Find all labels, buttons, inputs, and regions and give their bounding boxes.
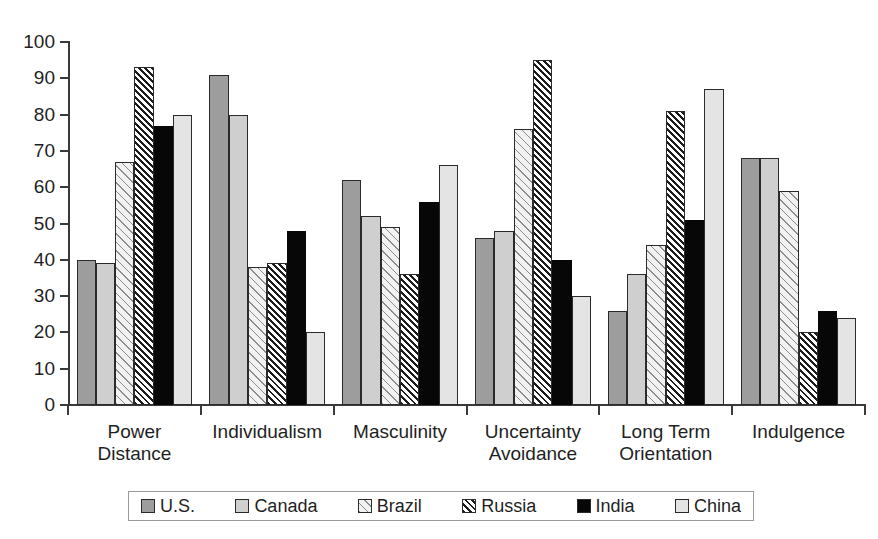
bar-india-power-distance (154, 126, 173, 406)
category-label-line: Individualism (191, 421, 344, 443)
legend-item-us[interactable]: U.S. (141, 497, 195, 515)
legend-swatch-icon (462, 499, 476, 513)
category-label: UncertaintyAvoidance (457, 421, 610, 465)
bar-russia-masculinity (400, 274, 419, 405)
bar-china-power-distance (173, 115, 192, 405)
legend-item-brazil[interactable]: Brazil (358, 497, 422, 515)
bar-us-power-distance (77, 260, 96, 405)
bar-canada-individualism (229, 115, 248, 405)
x-axis-tick (333, 405, 335, 415)
x-axis-tick (67, 405, 69, 415)
bar-russia-long-term-orientation (666, 111, 685, 405)
legend-label: India (596, 497, 635, 515)
category-label: Masculinity (324, 421, 477, 443)
legend-swatch-icon (358, 499, 372, 513)
y-axis-tick-label: 80 (0, 105, 55, 124)
legend-swatch-icon (141, 499, 155, 513)
category-label-line: Long Term (589, 421, 742, 443)
bar-brazil-power-distance (115, 162, 134, 405)
x-axis-tick (598, 405, 600, 415)
bar-india-masculinity (419, 202, 438, 405)
category-label-line: Masculinity (324, 421, 477, 443)
x-axis-tick (200, 405, 202, 415)
bar-india-indulgence (818, 311, 837, 405)
x-axis-tick (731, 405, 733, 415)
bar-brazil-masculinity (381, 227, 400, 405)
legend-label: China (694, 497, 741, 515)
bar-china-uncertainty-avoidance (572, 296, 591, 405)
bar-canada-indulgence (760, 158, 779, 405)
bar-china-individualism (306, 332, 325, 405)
y-axis-tick-label: 10 (0, 359, 55, 378)
chart-legend: U.S.CanadaBrazilRussiaIndiaChina (128, 491, 754, 521)
legend-item-india[interactable]: India (577, 497, 635, 515)
bar-us-individualism (209, 75, 228, 405)
category-label-line: Indulgence (722, 421, 875, 443)
legend-swatch-icon (235, 499, 249, 513)
category-label-line: Uncertainty (457, 421, 610, 443)
legend-item-russia[interactable]: Russia (462, 497, 536, 515)
bar-india-uncertainty-avoidance (552, 260, 571, 405)
bar-india-individualism (287, 231, 306, 405)
y-axis-tick-label: 0 (0, 395, 55, 414)
bar-us-masculinity (342, 180, 361, 405)
legend-label: U.S. (160, 497, 195, 515)
y-axis-tick-label: 100 (0, 32, 55, 51)
x-axis-tick (864, 405, 866, 415)
bar-us-uncertainty-avoidance (475, 238, 494, 405)
legend-label: Russia (481, 497, 536, 515)
y-axis-tick-label: 50 (0, 214, 55, 233)
y-axis-tick-label: 60 (0, 177, 55, 196)
bar-canada-uncertainty-avoidance (494, 231, 513, 405)
bar-russia-power-distance (134, 67, 153, 405)
bar-russia-indulgence (799, 332, 818, 405)
category-label: Indulgence (722, 421, 875, 443)
legend-label: Canada (254, 497, 317, 515)
y-axis-tick-label: 70 (0, 141, 55, 160)
bar-india-long-term-orientation (685, 220, 704, 405)
bar-us-long-term-orientation (608, 311, 627, 405)
bar-canada-power-distance (96, 263, 115, 405)
category-label-line: Avoidance (457, 443, 610, 465)
y-axis-tick-label: 90 (0, 68, 55, 87)
bar-chart: 1009080706050403020100 PowerDistanceIndi… (0, 0, 878, 539)
bar-china-long-term-orientation (704, 89, 723, 405)
y-axis-tick-label: 20 (0, 322, 55, 341)
legend-label: Brazil (377, 497, 422, 515)
bar-brazil-indulgence (779, 191, 798, 405)
chart-title (0, 0, 878, 2)
category-label: PowerDistance (58, 421, 211, 465)
bar-russia-individualism (267, 263, 286, 405)
category-label-line: Distance (58, 443, 211, 465)
bar-russia-uncertainty-avoidance (533, 60, 552, 405)
x-axis-tick (466, 405, 468, 415)
y-axis-tick-label: 30 (0, 286, 55, 305)
bar-us-indulgence (741, 158, 760, 405)
y-axis-tick-label: 40 (0, 250, 55, 269)
legend-swatch-icon (675, 499, 689, 513)
legend-item-canada[interactable]: Canada (235, 497, 317, 515)
bar-brazil-individualism (248, 267, 267, 405)
category-label-line: Power (58, 421, 211, 443)
bar-china-masculinity (439, 165, 458, 405)
category-label-line: Orientation (589, 443, 742, 465)
category-label: Long TermOrientation (589, 421, 742, 465)
bar-canada-masculinity (361, 216, 380, 405)
bar-brazil-uncertainty-avoidance (514, 129, 533, 405)
plot-area (68, 42, 865, 405)
bar-china-indulgence (837, 318, 856, 405)
bar-brazil-long-term-orientation (646, 245, 665, 405)
bar-canada-long-term-orientation (627, 274, 646, 405)
legend-item-china[interactable]: China (675, 497, 741, 515)
legend-swatch-icon (577, 499, 591, 513)
category-label: Individualism (191, 421, 344, 443)
